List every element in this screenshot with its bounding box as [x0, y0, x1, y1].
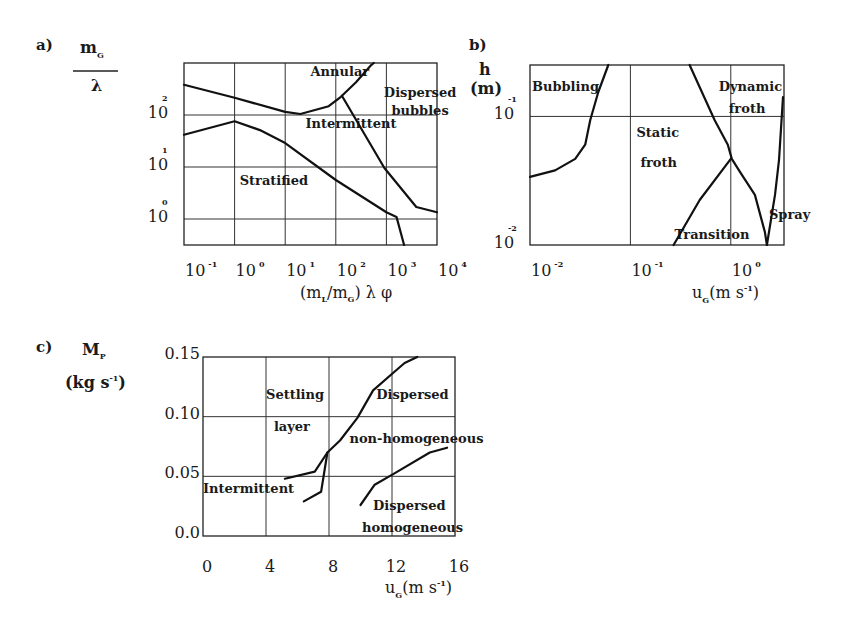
panel-c-xtick-label: 12 [386, 557, 406, 576]
panel-a-xtick-exp: -1 [208, 259, 217, 269]
panel-a-xtick-label: 103 [387, 259, 416, 280]
panel-c-xlabel-close: ) [446, 578, 452, 597]
panel-a-ylabel-sub: G [97, 50, 104, 60]
panel-b-region-label: Spray [769, 207, 811, 222]
panel-b-region-label: Static [636, 125, 679, 140]
panel-c-ytick-label: 0.0 [175, 523, 200, 542]
panel-c-xlabel-u: u [385, 578, 395, 597]
panel-a-xtick-base: 10 [337, 261, 357, 280]
panel-c-ylabel-close: ) [118, 373, 126, 392]
panel-a: a) mG λ 10-1100101102103104100101102Annu… [36, 36, 467, 304]
panel-a-region-label: Stratified [240, 173, 308, 188]
panel-a-xtick-label: 104 [438, 259, 467, 280]
panel-a-xlabel-close: ) λ φ [354, 283, 392, 302]
panel-b-spray-boundary-line [767, 97, 783, 245]
panel-b-xtick-label: 10-1 [631, 259, 663, 280]
panel-b-xtick-base: 10 [732, 261, 752, 280]
panel-a-ytick-label: 10 [148, 103, 168, 122]
panel-b-region-label: froth [729, 101, 766, 116]
panel-c-settling-dispersed-boundary-line [285, 357, 417, 479]
panel-a-letter: a) [36, 36, 53, 54]
panel-a-ytick-label: 10 [148, 207, 168, 226]
panel-b-plot: 10-210-110010-210-1BubblingDynamicfrothS… [494, 65, 811, 280]
panel-b-xtick-exp: -1 [655, 259, 664, 269]
panel-c-ytick-label: 0.05 [164, 463, 200, 482]
panel-c-region-label: Intermittent [203, 481, 294, 496]
panel-c-xlabel-exp: -1 [437, 578, 446, 588]
panel-b-region-label: Transition [675, 227, 750, 242]
flow-regime-figure: a) mG λ 10-1100101102103104100101102Annu… [0, 0, 849, 624]
panel-a-ylabel-m: m [80, 38, 97, 57]
panel-b-xtick-base: 10 [631, 261, 651, 280]
panel-a-ytick-exp: 0 [162, 197, 168, 207]
panel-a-xtick-exp: 0 [259, 259, 265, 269]
panel-c-region-label: Dispersed [376, 387, 448, 402]
panel-a-xtick-base: 10 [438, 261, 458, 280]
panel-a-xtick-label: 101 [286, 259, 315, 280]
panel-b-ylabel-unit: (m) [470, 79, 502, 98]
panel-c-xtick-label: 16 [449, 557, 469, 576]
panel-b-xtick-label: 10-2 [531, 259, 563, 280]
panel-a-region-label: bubbles [391, 103, 448, 118]
panel-c-xlabel-unit: (m s [402, 578, 437, 597]
panel-a-xtick-exp: 1 [310, 259, 316, 269]
panel-a-xtick-base: 10 [286, 261, 306, 280]
panel-c-ylabel-m: M [82, 340, 100, 359]
panel-c-xlabel: uG(m s-1) [385, 578, 452, 600]
panel-a-region-label: Dispersed [384, 85, 456, 100]
panel-a-ytick-exp: 1 [162, 145, 168, 155]
panel-a-xtick-exp: 3 [411, 259, 417, 269]
panel-a-xtick-label: 100 [236, 259, 265, 280]
panel-b-xtick-base: 10 [531, 261, 551, 280]
panel-c-xtick-label: 4 [265, 557, 275, 576]
panel-b-ytick-exp: -1 [508, 94, 517, 104]
panel-b-ytick-exp: -2 [508, 223, 517, 233]
panel-c-ylabel-sub: P [100, 351, 106, 361]
panel-c-region-label: Dispersed [373, 498, 445, 513]
panel-c-ylabel: MP [82, 340, 106, 361]
panel-b-xtick-exp: 0 [755, 259, 761, 269]
panel-c-region-label: layer [274, 419, 310, 434]
panel-c-region-label: Settling [266, 387, 324, 402]
panel-b-region-label: froth [640, 155, 677, 170]
panel-c-ytick-label: 0.10 [164, 404, 200, 423]
panel-b-region-label: Bubbling [532, 79, 599, 94]
panel-b-ytick-label: 10 [494, 233, 514, 252]
panel-a-ylabel-numerator: mG [80, 38, 104, 60]
panel-c-xtick-label: 0 [202, 557, 212, 576]
panel-c-ylabel-unit-text: (kg s [65, 373, 109, 392]
panel-c-ytick-label: 0.15 [164, 344, 200, 363]
panel-a-xtick-exp: 2 [360, 259, 366, 269]
panel-c-ylabel-exp: -1 [109, 373, 118, 383]
panel-b-xlabel-unit: (m s [709, 283, 744, 302]
panel-a-xlabel-open: (m [300, 283, 321, 302]
panel-a-ylabel-denominator: λ [91, 76, 102, 95]
panel-a-xtick-label: 10-1 [185, 259, 217, 280]
panel-a-xtick-label: 102 [337, 259, 366, 280]
panel-b-xlabel-exp: -1 [744, 283, 753, 293]
panel-a-xlabel: (mL/mG) λ φ [300, 283, 392, 304]
panel-a-xtick-base: 10 [387, 261, 407, 280]
panel-b-xlabel: uG(m s-1) [692, 283, 759, 305]
panel-c-region-label: non-homogeneous [349, 431, 483, 446]
panel-c: c) MP (kg s-1) 04812160.00.050.100.15Set… [36, 338, 484, 600]
panel-b-xlabel-u: u [692, 283, 702, 302]
panel-b-xtick-exp: -2 [554, 259, 563, 269]
panel-a-xtick-base: 10 [236, 261, 256, 280]
panel-a-ytick-exp: 2 [162, 93, 168, 103]
panel-c-xtick-label: 8 [328, 557, 338, 576]
panel-a-ytick-label: 10 [148, 155, 168, 174]
panel-b-ylabel-h: h [479, 60, 491, 79]
panel-a-xlabel-mid: /m [327, 283, 348, 302]
panel-a-xtick-base: 10 [185, 261, 205, 280]
panel-c-letter: c) [36, 338, 52, 356]
panel-a-xtick-exp: 4 [461, 259, 467, 269]
panel-c-region-label: homogeneous [362, 520, 463, 535]
panel-b-letter: b) [469, 36, 487, 54]
panel-a-plot: 10-1100101102103104100101102AnnularDispe… [148, 63, 468, 280]
panel-b-region-label: Dynamic [719, 79, 782, 94]
panel-a-region-label: Intermittent [305, 116, 396, 131]
panel-c-plot: 04812160.00.050.100.15SettlinglayerDispe… [164, 344, 483, 576]
panel-b-xlabel-close: ) [753, 283, 759, 302]
panel-b: b) h (m) 10-210-110010-210-1BubblingDyna… [469, 36, 811, 305]
